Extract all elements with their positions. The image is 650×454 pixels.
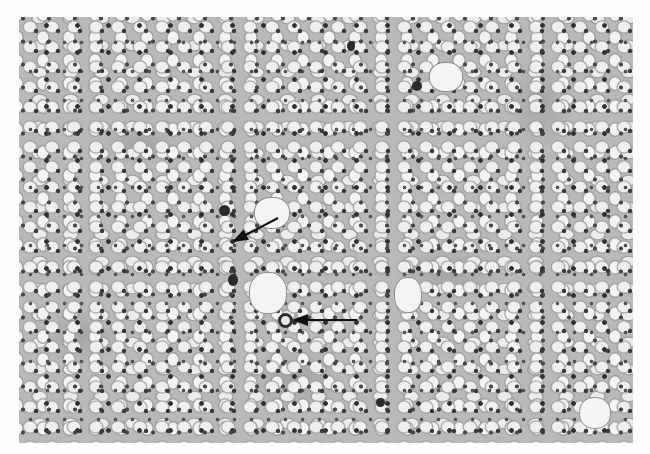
- arrow-icon: [234, 218, 278, 241]
- annotation-arrows: [0, 0, 650, 454]
